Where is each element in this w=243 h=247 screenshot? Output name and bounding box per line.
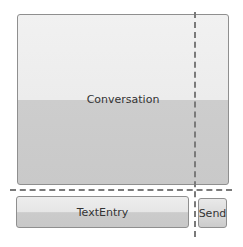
horizontal-guide-line [10, 189, 232, 191]
conversation-label: Conversation [87, 93, 160, 106]
text-entry-label: TextEntry [77, 206, 129, 219]
send-button[interactable]: Send [198, 198, 227, 228]
conversation-panel: Conversation [17, 14, 229, 185]
vertical-guide-line [194, 12, 196, 237]
text-entry-field[interactable]: TextEntry [16, 196, 189, 228]
send-label: Send [199, 207, 227, 220]
